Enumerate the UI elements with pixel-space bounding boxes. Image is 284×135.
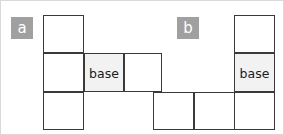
figure-b: bbase xyxy=(1,1,283,134)
cell-b-bottom-right xyxy=(234,92,275,130)
cell-b-bottom-middle xyxy=(194,92,235,130)
cell-b-top xyxy=(234,15,275,53)
cell-b-base: base xyxy=(234,53,275,92)
figure-label-badge-b: b xyxy=(177,17,199,39)
diagram-canvas: abasebbase xyxy=(0,0,284,135)
base-face-label: base xyxy=(235,65,274,80)
cell-b-bottom-left xyxy=(153,92,194,130)
